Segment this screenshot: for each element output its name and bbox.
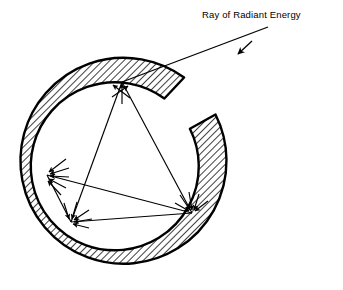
ray-label: Ray of Radiant Energy — [202, 9, 301, 20]
diagram-canvas: Ray of Radiant Energy — [0, 0, 343, 290]
ray-diagram-figure: Ray of Radiant Energy — [0, 0, 343, 290]
